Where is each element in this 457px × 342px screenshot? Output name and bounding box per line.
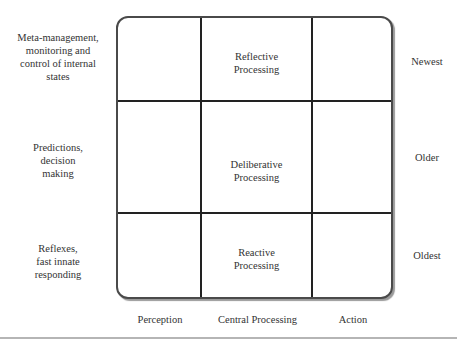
row-label-line: fast innate: [2, 255, 114, 268]
age-label-oldest: Oldest: [398, 249, 456, 262]
row-label-reflexes: Reflexes, fast innate responding: [2, 242, 114, 281]
row-label-line: decision: [2, 154, 114, 167]
cell-line: Processing: [202, 259, 311, 272]
row-label-line: monitoring and: [2, 44, 114, 57]
column-label-action: Action: [313, 313, 393, 326]
row-label-line: Meta-management,: [2, 31, 114, 44]
row-label-meta-management: Meta-management, monitoring and control …: [2, 31, 114, 83]
row-label-line: making: [2, 167, 114, 180]
cell-line: Processing: [202, 171, 311, 184]
row-label-line: Reflexes,: [2, 242, 114, 255]
architecture-grid: Reflective Processing Deliberative Proce…: [116, 16, 393, 299]
grid-divider-vertical: [311, 18, 313, 297]
grid-divider-horizontal: [118, 212, 391, 214]
age-label-newest: Newest: [398, 55, 456, 68]
cell-line: Deliberative: [202, 158, 311, 171]
cell-reactive-processing: Reactive Processing: [202, 246, 311, 272]
cell-reflective-processing: Reflective Processing: [202, 50, 311, 76]
cell-line: Reactive: [202, 246, 311, 259]
age-label-older: Older: [398, 151, 456, 164]
bottom-rule: [0, 337, 457, 339]
row-label-predictions: Predictions, decision making: [2, 141, 114, 180]
cell-deliberative-processing: Deliberative Processing: [202, 158, 311, 184]
column-label-central-processing: Central Processing: [202, 313, 313, 326]
grid-divider-horizontal: [118, 100, 391, 102]
row-label-line: responding: [2, 268, 114, 281]
row-label-line: control of internal: [2, 57, 114, 70]
row-label-line: states: [2, 70, 114, 83]
cell-line: Processing: [202, 63, 311, 76]
column-label-perception: Perception: [118, 313, 202, 326]
row-label-line: Predictions,: [2, 141, 114, 154]
cell-line: Reflective: [202, 50, 311, 63]
